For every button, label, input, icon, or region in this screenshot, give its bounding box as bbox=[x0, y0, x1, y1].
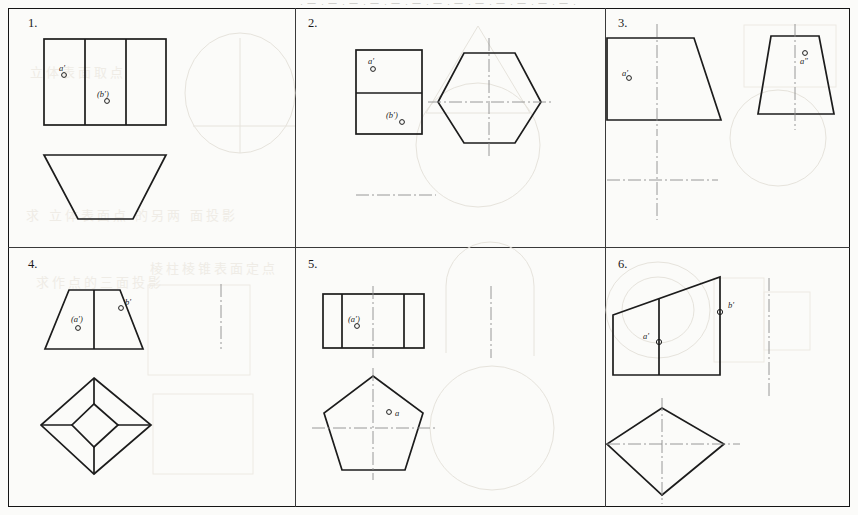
panel-4-label-a-prime-hidden: (a′) bbox=[71, 314, 83, 324]
panel-3-label-a-prime: a′ bbox=[622, 68, 628, 78]
panel-6-drawing bbox=[606, 248, 850, 507]
panel-3[interactable]: 3. a′ a″ bbox=[606, 8, 850, 247]
panel-2-label-b-prime-hidden: (b′) bbox=[386, 110, 398, 120]
panel-6-label-b-prime: b′ bbox=[728, 300, 734, 310]
panel-3-label-a-double-prime: a″ bbox=[800, 56, 808, 66]
panel-5-label-a-prime-hidden: (a′) bbox=[348, 314, 360, 324]
panel-1-drawing bbox=[8, 8, 295, 247]
panel-2[interactable]: 2. a′ (b′) bbox=[296, 8, 605, 247]
panel-5[interactable]: 5. (a′) a bbox=[296, 248, 605, 507]
worksheet-sheet: · 一 · 一 · 一 · 一 · 一 · 一 · 一 · 一 · 一 · 一 … bbox=[0, 0, 858, 515]
panel-1-label-b-prime-hidden: (b′) bbox=[97, 89, 109, 99]
panel-6-label-a-prime: a′ bbox=[643, 331, 649, 341]
panel-4-drawing bbox=[8, 248, 295, 507]
panel-5-label-a: a bbox=[395, 408, 399, 418]
panel-2-label-a-prime: a′ bbox=[368, 56, 374, 66]
panel-2-drawing bbox=[296, 8, 605, 247]
panel-5-drawing bbox=[296, 248, 605, 507]
panel-6[interactable]: 6. a′ b′ bbox=[606, 248, 850, 507]
panel-1[interactable]: 1. a′ (b′) bbox=[8, 8, 295, 247]
panel-3-drawing bbox=[606, 8, 850, 247]
panel-4-label-b-prime: b′ bbox=[125, 297, 131, 307]
panel-1-label-a-prime: a′ bbox=[59, 63, 65, 73]
panel-4[interactable]: 4. (a′) b′ bbox=[8, 248, 295, 507]
